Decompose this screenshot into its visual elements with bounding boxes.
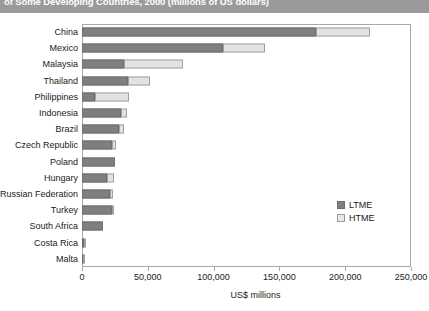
bar-segment-ltme bbox=[82, 141, 112, 150]
stacked-bar bbox=[82, 125, 411, 134]
bar-row: Costa Rica bbox=[0, 234, 429, 250]
x-tick bbox=[279, 267, 280, 271]
bar-segment-ltme bbox=[82, 28, 316, 37]
category-label: China bbox=[54, 27, 78, 37]
bar-segment-ltme bbox=[82, 157, 115, 166]
bar-segment-htme bbox=[84, 238, 86, 247]
stacked-bar bbox=[82, 92, 411, 101]
x-axis-title-text: US$ millions bbox=[230, 290, 280, 300]
category-label: Malta bbox=[56, 254, 78, 264]
category-label: Brazil bbox=[55, 124, 78, 134]
category-label: Czech Republic bbox=[15, 140, 78, 150]
bar-segment-htme bbox=[110, 189, 113, 198]
bar-row: Poland bbox=[0, 154, 429, 170]
category-label: Turkey bbox=[51, 205, 78, 215]
legend-swatch-htme bbox=[337, 214, 345, 222]
x-axis-title: US$ millions bbox=[0, 290, 429, 300]
x-tick-label: 250,000 bbox=[395, 272, 428, 282]
bar-segment-htme bbox=[124, 60, 183, 69]
bar-segment-ltme bbox=[82, 125, 119, 134]
x-axis-tick-labels: 050,000100,000150,000200,000250,000 bbox=[0, 272, 429, 286]
bar-row: Malaysia bbox=[0, 56, 429, 72]
bar-segment-htme bbox=[119, 125, 124, 134]
bar-row: Hungary bbox=[0, 170, 429, 186]
bar-segment-ltme bbox=[82, 109, 121, 118]
x-tick bbox=[148, 267, 149, 271]
legend-label: LTME bbox=[349, 200, 372, 210]
legend-item-htme: HTME bbox=[337, 212, 375, 223]
bar-segment-htme bbox=[223, 44, 265, 53]
bar-segment-ltme bbox=[82, 189, 110, 198]
chart-page: of Some Developing Countries, 2000 (mill… bbox=[0, 0, 429, 311]
bar-row: Czech Republic bbox=[0, 137, 429, 153]
category-label: Poland bbox=[50, 157, 78, 167]
x-tick bbox=[82, 267, 83, 271]
bar-segment-htme bbox=[95, 92, 129, 101]
legend-label: HTME bbox=[349, 213, 375, 223]
bar-segment-htme bbox=[112, 206, 114, 215]
x-tick-label: 100,000 bbox=[197, 272, 230, 282]
stacked-bar bbox=[82, 28, 411, 37]
stacked-bar bbox=[82, 189, 411, 198]
bar-row: Philippines bbox=[0, 89, 429, 105]
bar-segment-ltme bbox=[82, 173, 107, 182]
x-tick-label: 150,000 bbox=[263, 272, 296, 282]
bar-segment-ltme bbox=[82, 76, 128, 85]
bar-segment-ltme bbox=[82, 222, 103, 231]
legend-swatch-ltme bbox=[337, 201, 345, 209]
category-label: Mexico bbox=[49, 43, 78, 53]
bar-segment-htme bbox=[121, 109, 126, 118]
bar-segment-htme bbox=[128, 76, 150, 85]
x-tick-label: 0 bbox=[79, 272, 84, 282]
category-label: Philippines bbox=[34, 92, 78, 102]
stacked-bar bbox=[82, 60, 411, 69]
category-label: Indonesia bbox=[39, 108, 78, 118]
category-label: Hungary bbox=[44, 173, 78, 183]
bar-segment-htme bbox=[83, 254, 85, 263]
category-label: Malaysia bbox=[42, 59, 78, 69]
stacked-bar bbox=[82, 173, 411, 182]
bar-row: Thailand bbox=[0, 73, 429, 89]
chart-title: of Some Developing Countries, 2000 (mill… bbox=[4, 0, 269, 7]
chart-title-bar: of Some Developing Countries, 2000 (mill… bbox=[0, 0, 429, 13]
x-tick-label: 50,000 bbox=[134, 272, 162, 282]
x-tick-label: 200,000 bbox=[329, 272, 362, 282]
category-label: Costa Rica bbox=[34, 238, 78, 248]
stacked-bar bbox=[82, 44, 411, 53]
category-label: Russian Federation bbox=[0, 189, 78, 199]
stacked-bar bbox=[82, 141, 411, 150]
category-label: Thailand bbox=[43, 76, 78, 86]
x-tick bbox=[411, 267, 412, 271]
bar-row: Brazil bbox=[0, 121, 429, 137]
stacked-bar bbox=[82, 76, 411, 85]
bar-row: Mexico bbox=[0, 40, 429, 56]
x-tick bbox=[214, 267, 215, 271]
chart-legend: LTMEHTME bbox=[337, 199, 375, 225]
bar-row: China bbox=[0, 24, 429, 40]
legend-item-ltme: LTME bbox=[337, 199, 375, 210]
stacked-bar bbox=[82, 157, 411, 166]
x-tick bbox=[345, 267, 346, 271]
bar-segment-htme bbox=[316, 28, 370, 37]
bar-segment-ltme bbox=[82, 60, 124, 69]
bar-segment-ltme bbox=[82, 206, 112, 215]
category-label: South Africa bbox=[29, 221, 78, 231]
bar-row: Malta bbox=[0, 251, 429, 267]
stacked-bar bbox=[82, 254, 411, 263]
bar-rows: ChinaMexicoMalaysiaThailandPhilippinesIn… bbox=[0, 24, 429, 267]
stacked-bar bbox=[82, 238, 411, 247]
bar-row: Indonesia bbox=[0, 105, 429, 121]
stacked-bar bbox=[82, 109, 411, 118]
bar-segment-htme bbox=[112, 141, 115, 150]
bar-segment-htme bbox=[107, 173, 114, 182]
bar-segment-ltme bbox=[82, 44, 223, 53]
bar-segment-ltme bbox=[82, 92, 95, 101]
